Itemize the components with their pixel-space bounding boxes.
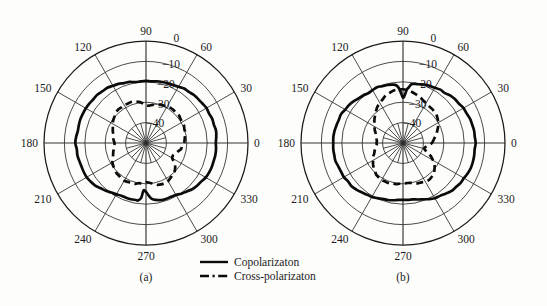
angle-tick-label-90: 90	[397, 25, 409, 37]
radial-tick-label--10: −10	[162, 58, 180, 70]
angle-tick-label-270: 270	[137, 250, 155, 262]
angle-tick-label-0: 0	[254, 137, 260, 149]
angle-tick-label-300: 300	[458, 233, 476, 245]
angle-tick-label-60: 60	[458, 41, 470, 53]
angle-tick-label-150: 150	[291, 82, 309, 94]
angle-tick-label-300: 300	[201, 233, 219, 245]
angle-tick-label-0: 0	[511, 137, 517, 149]
legend-label-dashed: Cross-polarizaton	[234, 270, 316, 283]
legend-label-solid: Copolarizaton	[234, 256, 299, 269]
angle-tick-label-30: 30	[497, 82, 509, 94]
angle-tick-label-30: 30	[240, 82, 252, 94]
angle-tick-label-180: 180	[21, 137, 39, 149]
radiation-pattern-figure: 03060901201501802102402703003300−10−20−3…	[0, 0, 547, 306]
radial-tick-label--30: −30	[409, 98, 427, 110]
panel-label-b: (b)	[396, 271, 410, 284]
angle-tick-label-330: 330	[240, 193, 258, 205]
radial-tick-label-0: 0	[174, 32, 180, 44]
angle-tick-label-330: 330	[497, 193, 515, 205]
angle-tick-label-240: 240	[74, 233, 92, 245]
angle-tick-label-150: 150	[34, 82, 52, 94]
angle-tick-label-210: 210	[34, 193, 52, 205]
angle-tick-label-60: 60	[201, 41, 213, 53]
angle-tick-label-120: 120	[331, 41, 349, 53]
angle-tick-label-240: 240	[331, 233, 349, 245]
angle-tick-label-180: 180	[278, 137, 296, 149]
radial-tick-label--10: −10	[419, 58, 437, 70]
angle-tick-label-210: 210	[291, 193, 309, 205]
angle-tick-label-120: 120	[74, 41, 92, 53]
angle-tick-label-90: 90	[140, 25, 152, 37]
panel-label-a: (a)	[140, 271, 153, 284]
angle-tick-label-270: 270	[394, 250, 412, 262]
radial-tick-label--40: −40	[403, 117, 421, 129]
radial-tick-label-0: 0	[431, 32, 437, 44]
radial-tick-label--40: −40	[146, 117, 164, 129]
